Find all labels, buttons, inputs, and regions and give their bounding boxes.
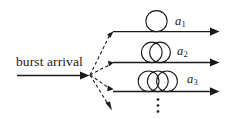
branch-2-group — [113, 42, 220, 66]
fiber-loop-3-2 — [147, 71, 168, 92]
branch-1-arrow — [113, 28, 220, 36]
fiber-loop-3-3 — [157, 71, 178, 92]
input-arrow — [17, 72, 90, 80]
branch-2-arrow — [113, 58, 220, 66]
branch-2-label-subscript: 2 — [183, 49, 188, 59]
fiber-loop-3-1 — [138, 71, 159, 92]
branch-3-arrow — [113, 87, 220, 95]
branch-3-label-subscript: 3 — [193, 77, 198, 87]
branch-connector-4 — [90, 75, 112, 111]
fiber-loop-2-1 — [142, 42, 163, 63]
branch-1-label-subscript: 1 — [181, 19, 186, 29]
branch-1-group — [113, 11, 220, 36]
branch-1-label: a1 — [175, 15, 186, 29]
branch-fan — [90, 31, 114, 110]
fiber-loop-1-1 — [146, 11, 167, 32]
branch-3-label: a3 — [187, 73, 198, 87]
burst-arrival-label: burst arrival — [16, 55, 83, 69]
vertical-ellipsis — [157, 98, 160, 113]
branch-3-group — [113, 71, 220, 96]
fiber-loop-2-2 — [150, 42, 171, 63]
figure-canvas: burst arrival a1 a2 a3 — [0, 0, 229, 119]
branch-2-label: a2 — [177, 45, 188, 59]
branch-connector-3 — [90, 75, 114, 91]
